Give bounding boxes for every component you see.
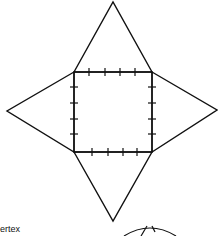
square-base xyxy=(74,72,152,152)
triangle-face-right xyxy=(152,72,217,152)
triangle-face-bottom xyxy=(74,152,152,221)
pyramid-net-diagram xyxy=(0,0,218,236)
vertex-label: ertex xyxy=(0,224,20,234)
triangle-face-top xyxy=(74,2,152,72)
partial-circle-figure xyxy=(124,226,176,236)
tick-marks xyxy=(70,68,156,156)
triangle-face-left xyxy=(7,72,74,152)
